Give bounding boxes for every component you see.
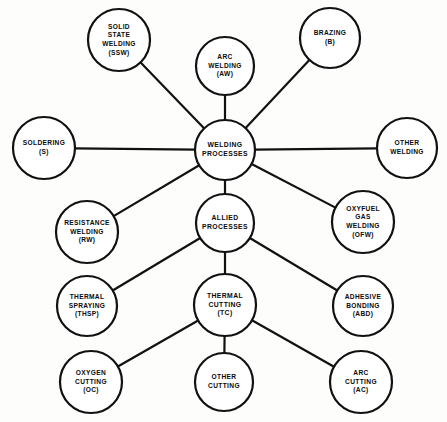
node-label-solid-state-welding: SOLID (108, 23, 130, 30)
node-label-thermal-spraying: SPRAYING (69, 302, 106, 309)
node-label-thermal-cutting: THERMAL (207, 292, 243, 299)
node-label-solid-state-welding: STATE (108, 31, 131, 38)
edge-welding-processes-other-welding (255, 148, 378, 149)
node-thermal-spraying[interactable]: THERMALSPRAYING(THSP) (57, 276, 117, 336)
node-label-other-welding: OTHER (395, 139, 420, 146)
node-label-resistance-welding: RESISTANCE (64, 219, 110, 226)
node-label-other-cutting: OTHER (212, 373, 237, 380)
edge-allied-processes-adhesive-bonding (249, 238, 337, 291)
node-label-arc-welding: WELDING (208, 62, 242, 69)
node-label-solid-state-welding: (SSW) (108, 49, 129, 57)
node-label-welding-processes: WELDING (208, 141, 243, 148)
edge-welding-processes-resistance-welding (113, 165, 199, 216)
node-label-oxyfuel-gas-welding: GAS (355, 213, 371, 220)
node-solid-state-welding[interactable]: SOLIDSTATEWELDING(SSW) (88, 9, 150, 71)
node-label-adhesive-bonding: (ABD) (353, 310, 373, 318)
node-label-arc-welding: ARC (217, 53, 232, 60)
edge-welding-processes-brazing (245, 60, 310, 129)
node-oxyfuel-gas-welding[interactable]: OXYFUELGASWELDING(OFW) (332, 191, 394, 253)
node-label-oxygen-cutting: (OC) (83, 386, 99, 394)
node-resistance-welding[interactable]: RESISTANCEWELDING(RW) (56, 201, 118, 263)
node-label-thermal-spraying: (THSP) (75, 310, 99, 318)
node-label-thermal-spraying: THERMAL (70, 293, 105, 300)
node-thermal-cutting[interactable]: THERMALCUTTING(TC) (194, 274, 256, 336)
nodes-layer: SOLIDSTATEWELDING(SSW)ARCWELDING(AW)BRAZ… (13, 8, 437, 413)
node-label-oxygen-cutting: OXYGEN (76, 369, 106, 376)
node-soldering[interactable]: SOLDERING(S) (13, 117, 75, 179)
node-label-other-welding: WELDING (390, 148, 424, 155)
node-label-oxyfuel-gas-welding: WELDING (346, 222, 380, 229)
node-brazing[interactable]: BRAZING(B) (300, 8, 360, 68)
node-label-allied-processes: PROCESSES (202, 223, 248, 230)
node-label-soldering: SOLDERING (23, 139, 65, 146)
node-label-oxyfuel-gas-welding: OXYFUEL (346, 205, 380, 212)
node-label-brazing: BRAZING (314, 29, 347, 36)
edge-thermal-cutting-oxygen-cutting (117, 320, 198, 367)
node-label-resistance-welding: WELDING (70, 228, 104, 235)
node-other-welding[interactable]: OTHERWELDING (377, 118, 437, 178)
node-label-adhesive-bonding: ADHESIVE (345, 293, 382, 300)
node-label-thermal-cutting: (TC) (217, 309, 232, 317)
node-oxygen-cutting[interactable]: OXYGENCUTTING(OC) (60, 351, 122, 413)
edge-welding-processes-solid-state-welding (140, 62, 204, 129)
node-label-arc-cutting: ARC (353, 369, 368, 376)
node-adhesive-bonding[interactable]: ADHESIVEBONDING(ABD) (333, 276, 393, 336)
node-arc-cutting[interactable]: ARCCUTTING(AC) (330, 351, 392, 413)
node-label-oxygen-cutting: CUTTING (75, 378, 107, 385)
welding-processes-diagram: SOLIDSTATEWELDING(SSW)ARCWELDING(AW)BRAZ… (0, 0, 447, 422)
node-label-welding-processes: PROCESSES (202, 150, 248, 157)
edge-allied-processes-thermal-spraying (112, 238, 200, 291)
node-welding-processes[interactable]: WELDINGPROCESSES (195, 120, 255, 180)
node-label-arc-cutting: CUTTING (345, 378, 377, 385)
node-label-other-cutting: CUTTING (208, 382, 240, 389)
node-allied-processes[interactable]: ALLIEDPROCESSES (196, 194, 254, 252)
edge-welding-processes-oxyfuel-gas-welding (251, 164, 336, 208)
edge-thermal-cutting-arc-cutting (252, 320, 335, 367)
node-label-adhesive-bonding: BONDING (346, 302, 380, 309)
edge-welding-processes-soldering (75, 148, 196, 149)
node-arc-welding[interactable]: ARCWELDING(AW) (196, 37, 254, 95)
node-label-arc-cutting: (AC) (353, 386, 368, 394)
node-label-oxyfuel-gas-welding: (OFW) (352, 231, 374, 239)
node-other-cutting[interactable]: OTHERCUTTING (195, 353, 253, 411)
node-label-brazing: (B) (325, 38, 335, 46)
node-label-allied-processes: ALLIED (212, 214, 239, 221)
node-label-arc-welding: (AW) (217, 70, 233, 78)
node-label-soldering: (S) (39, 148, 49, 156)
node-label-solid-state-welding: WELDING (102, 40, 136, 47)
diagram-canvas: SOLIDSTATEWELDING(SSW)ARCWELDING(AW)BRAZ… (0, 0, 447, 422)
node-label-thermal-cutting: CUTTING (208, 301, 241, 308)
node-label-resistance-welding: (RW) (79, 236, 96, 244)
